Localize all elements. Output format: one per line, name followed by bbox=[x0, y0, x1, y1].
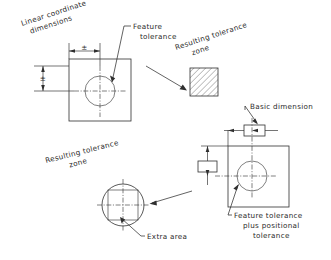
flow-arrow-to-circular-zone bbox=[150, 191, 193, 205]
figure-part-coordinate bbox=[69, 59, 131, 121]
arrow-head bbox=[150, 201, 157, 206]
label-line-1: Resulting tolerance bbox=[174, 20, 249, 52]
arrow-head bbox=[180, 85, 188, 91]
dimension-horizontal-basic bbox=[224, 125, 278, 146]
tolerance-zone-hatch-fill bbox=[190, 68, 218, 96]
engineering-diagram: ± ± Linear coordinate dimensions Feature… bbox=[0, 0, 331, 260]
label-feature-plus-positional: Feature tolerance plus positional tolera… bbox=[228, 184, 303, 240]
label-extra-area: Extra area bbox=[120, 217, 187, 241]
arrowhead-left bbox=[69, 49, 75, 53]
figure-tolerance-zone-square bbox=[190, 68, 218, 96]
arrowhead-bottom bbox=[41, 85, 45, 91]
vertical-dimension-value: ± bbox=[40, 74, 46, 83]
dimension-vertical-coordinate: ± bbox=[34, 66, 74, 91]
arrow-shaft bbox=[146, 66, 185, 89]
arrowhead-top bbox=[206, 146, 210, 152]
label-basic-dimension: Basic dimension bbox=[245, 102, 313, 125]
label-line-2: tolerance bbox=[140, 32, 177, 41]
label-line-3: tolerance bbox=[253, 231, 290, 240]
arrow-shaft bbox=[152, 191, 192, 203]
arrowhead-right bbox=[252, 129, 258, 133]
arrowhead-top bbox=[41, 66, 45, 72]
label-line-1: Basic dimension bbox=[250, 102, 313, 111]
label-feature-tolerance: Feature tolerance bbox=[110, 22, 177, 83]
label-line-1: Feature tolerance bbox=[234, 211, 303, 220]
horizontal-dimension-value: ± bbox=[81, 43, 87, 52]
arrowhead-bottom bbox=[206, 170, 210, 176]
flow-arrow-to-tolerance-zone bbox=[146, 66, 187, 91]
figure-part-positional bbox=[215, 118, 289, 207]
figure-tolerance-zone-circle bbox=[97, 179, 149, 231]
leader-line bbox=[112, 26, 124, 82]
label-line-2: plus positional bbox=[243, 221, 300, 230]
leader-arrowhead bbox=[233, 184, 239, 190]
label-resulting-tolerance-zone-top: Resulting tolerance zone bbox=[174, 20, 252, 61]
drawing-canvas: ± ± Linear coordinate dimensions Feature… bbox=[0, 0, 331, 260]
dimension-vertical-basic bbox=[198, 146, 228, 185]
arrowhead-left bbox=[228, 129, 234, 133]
label-line-1: Feature bbox=[133, 22, 163, 31]
dimension-horizontal-coordinate: ± bbox=[69, 43, 100, 66]
label-linear-coordinate-dimensions: Linear coordinate dimensions bbox=[20, 0, 91, 37]
arrowhead-right bbox=[94, 49, 100, 53]
label-resulting-tolerance-zone-bottom: Resulting tolerance zone bbox=[44, 138, 122, 175]
label-line-1: Extra area bbox=[147, 232, 187, 241]
leader-arrowhead bbox=[252, 119, 258, 125]
